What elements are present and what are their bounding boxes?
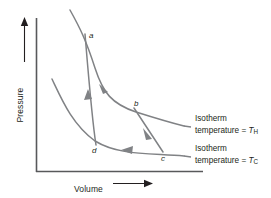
legend-hot-line2: temperature = TH (195, 125, 258, 138)
legend-hot-line1: Isotherm (195, 114, 227, 123)
hot-isotherm-curve (70, 10, 184, 126)
point-label-a: a (89, 31, 93, 40)
legend-hot-isotherm: Isotherm temperature = TH (195, 113, 258, 137)
point-label-b: b (134, 99, 138, 108)
legend-cold-subscript: C (254, 158, 259, 165)
right-arrow-icon (144, 180, 153, 187)
arrow-a-to-b-icon (99, 84, 108, 94)
up-arrow-icon (21, 17, 28, 26)
legend-hot-subscript: H (254, 128, 259, 135)
pv-diagram-figure: a b c d Pressure Volume Isotherm tempera… (0, 0, 271, 198)
cold-isotherm-curve (52, 79, 184, 156)
volume-axis-arrow-group (113, 180, 153, 187)
arrow-c-to-d-icon (121, 146, 133, 154)
x-axis-label: Volume (74, 184, 103, 194)
x-axis-label-group: Volume (74, 178, 103, 196)
legend-cold-prefix: temperature = (195, 156, 248, 165)
y-axis-label: Pressure (15, 88, 25, 123)
hot-legend-leader (184, 126, 191, 127)
legend-hot-prefix: temperature = (195, 126, 248, 135)
adiabat-d-to-a (85, 34, 96, 145)
legend-cold-line1: Isotherm (195, 144, 227, 153)
pressure-axis-arrow-group (21, 17, 28, 62)
legend-cold-line2: temperature = TC (195, 155, 258, 168)
point-label-d: d (92, 146, 96, 155)
y-axis-label-group: Pressure (9, 75, 27, 135)
legend-leader-lines (184, 126, 191, 157)
adiabat-b-to-c (134, 108, 163, 152)
point-label-c: c (161, 154, 165, 163)
cold-legend-leader (184, 156, 191, 157)
legend-cold-isotherm: Isotherm temperature = TC (195, 143, 258, 167)
axes-group (36, 18, 203, 172)
